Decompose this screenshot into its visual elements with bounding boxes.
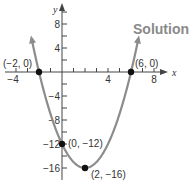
key-point-label: (−2, 0) [3,58,32,69]
key-point-label: (2, −16) [91,169,126,180]
key-point-dot [82,165,88,171]
y-tick-label: 4 [54,43,60,54]
x-axis-label: x [171,67,177,78]
y-tick-label: −12 [43,139,60,150]
axes: −44884−4−8−12−16xy [5,3,177,180]
parabola-chart: −44884−4−8−12−16xy (−2, 0)(6, 0)(0, −12)… [0,0,192,181]
key-points: (−2, 0)(6, 0)(0, −12)(2, −16) [3,58,158,180]
key-point-label: (6, 0) [135,58,158,69]
curve-right-arrow-icon [134,35,141,44]
key-point-dot [59,141,65,147]
y-tick-label: −4 [49,91,61,102]
x-tick-label: 4 [105,74,111,85]
x-tick-label: 8 [151,74,157,85]
y-axis-arrow-icon [59,3,65,11]
x-tick-label: −4 [7,74,19,85]
y-tick-label: −16 [43,163,60,174]
key-point-dot [36,69,42,75]
y-axis-label: y [52,4,58,15]
curve-left-arrow-icon [29,35,36,44]
x-axis-arrow-icon [160,69,168,75]
key-point-dot [128,69,134,75]
y-tick-label: 8 [54,19,60,30]
key-point-label: (0, −12) [68,138,103,149]
